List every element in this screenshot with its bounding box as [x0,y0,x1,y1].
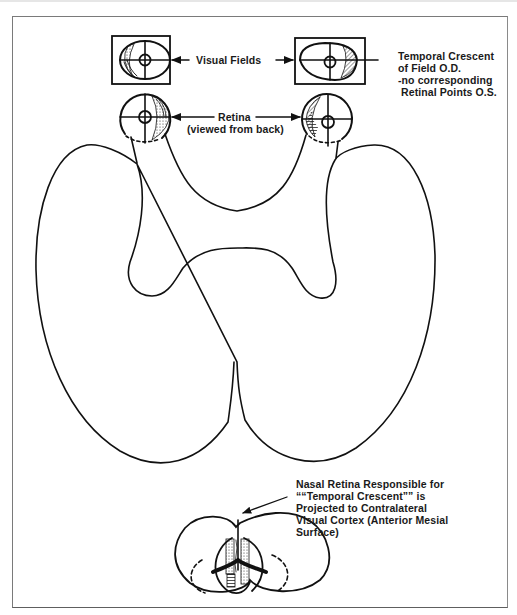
brain-outline [36,145,435,463]
left-visual-field [112,36,170,84]
visual-fields-label: Visual Fields [196,54,261,66]
right-optic-tract [336,142,338,158]
nasal-retina-line-4: Visual Cortex (Anterior Mesial [296,514,448,526]
right-retina [302,94,352,146]
right-visual-field [295,38,378,84]
retina-sublabel: (viewed from back) [187,123,284,135]
left-retina [120,94,170,143]
left-optic-tract-inner [165,134,306,211]
retina-label: Retina [218,111,251,123]
nasal-retina-line-2: ““Temporal Crescent”” is [296,490,425,502]
nasal-retina-line-1: Nasal Retina Responsible for [296,478,444,490]
nasal-retina-arrow [243,497,287,513]
nasal-retina-line-5: Surface) [296,526,339,538]
temporal-crescent-line-3: -no corresponding [398,74,492,86]
nasal-retina-line-3: Projected to Contralateral [296,502,427,514]
temporal-crescent-line-1: Temporal Crescent [398,50,494,62]
temporal-crescent-line-2: of Field O.D. [398,62,461,74]
temporal-crescent-line-4: Retinal Points O.S. [398,86,497,98]
